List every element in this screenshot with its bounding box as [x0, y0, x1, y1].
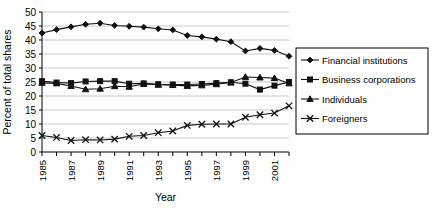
marker-square	[257, 87, 262, 92]
x-axis-tick-label: 1995	[182, 160, 193, 181]
marker-diamond	[243, 48, 249, 54]
marker-diamond	[184, 33, 190, 39]
y-axis-tick-label: 40	[25, 35, 37, 46]
x-axis-title: Year	[155, 191, 177, 203]
marker-x	[286, 103, 292, 109]
marker-diamond	[199, 34, 205, 40]
marker-diamond	[39, 30, 45, 36]
marker-diamond	[155, 26, 161, 32]
chart-figure: 0510152025303540455019851987198919911993…	[0, 0, 432, 210]
marker-square	[308, 77, 313, 82]
y-axis-tick-label: 20	[25, 91, 37, 102]
marker-diamond	[68, 24, 74, 30]
x-axis-tick-label: 1993	[153, 160, 164, 181]
marker-diamond	[213, 36, 219, 42]
x-axis-tick-label: 1997	[211, 160, 222, 181]
y-axis-tick-label: 50	[25, 7, 37, 18]
marker-diamond	[112, 23, 118, 29]
marker-diamond	[97, 20, 103, 26]
marker-diamond	[141, 24, 147, 30]
y-axis-title: Percent of total shares	[1, 29, 13, 134]
y-axis-tick-label: 45	[25, 21, 37, 32]
x-axis-tick-label: 1985	[37, 160, 48, 181]
y-axis-tick-label: 5	[30, 133, 36, 144]
series-line	[42, 77, 289, 89]
line-chart: 0510152025303540455019851987198919911993…	[0, 0, 432, 210]
marker-square	[83, 79, 88, 84]
x-axis-tick-label: 2001	[269, 160, 280, 181]
legend-item-label: Individuals	[322, 94, 367, 105]
legend: Financial institutionsBusiness corporati…	[296, 48, 428, 134]
marker-diamond	[54, 27, 60, 33]
legend-item-label: Financial institutions	[322, 55, 408, 66]
marker-diamond	[257, 46, 263, 52]
x-axis-tick-label: 1987	[66, 160, 77, 181]
series-line	[42, 106, 289, 141]
x-axis-tick-label: 1989	[95, 160, 106, 181]
y-axis-tick-label: 25	[25, 77, 37, 88]
y-axis-tick-label: 0	[30, 147, 36, 158]
x-axis-tick-label: 1999	[240, 160, 251, 181]
legend-item-label: Business corporations	[322, 74, 416, 85]
marker-diamond	[126, 23, 132, 29]
y-axis-tick-label: 35	[25, 49, 37, 60]
y-axis-tick-label: 30	[25, 63, 37, 74]
marker-square	[272, 83, 277, 88]
marker-square	[243, 81, 248, 86]
x-axis-tick-label: 1991	[124, 160, 135, 181]
marker-diamond	[170, 27, 176, 33]
y-axis-tick-label: 10	[25, 119, 37, 130]
marker-square	[98, 79, 103, 84]
y-axis-tick-label: 15	[25, 105, 37, 116]
legend-item-label: Foreigners	[322, 113, 368, 124]
marker-diamond	[272, 47, 278, 53]
